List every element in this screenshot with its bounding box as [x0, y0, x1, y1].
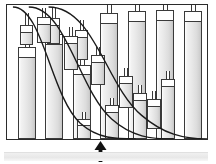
cylinder-cap [37, 17, 51, 25]
cylinder-body [184, 11, 202, 139]
cylinder-body [45, 34, 63, 139]
cylinder-cap [156, 10, 174, 21]
cylinder-cap [119, 76, 133, 84]
cyl-r1c7 [184, 5, 202, 139]
cyl-low-b [105, 98, 119, 139]
cylinder-cap [147, 99, 161, 107]
cyl-mid-d [147, 91, 161, 129]
bottom-band [4, 152, 208, 161]
cylinder-cap [100, 13, 118, 24]
cyl-low-a [77, 112, 91, 139]
diagram-frame [6, 4, 208, 140]
cyl-mid-b [91, 47, 105, 85]
cyl-mid-c [119, 68, 133, 108]
cylinder-cap [20, 25, 33, 33]
cyl-r2c1 [20, 13, 33, 45]
cylinder-cap [18, 47, 36, 58]
cylinder-cap [133, 93, 147, 101]
cylinder-cap [91, 55, 105, 63]
cylinder-cap [161, 79, 175, 87]
cylinder-body [18, 47, 36, 139]
figure-canvas [0, 0, 216, 164]
cylinder-cap [77, 119, 91, 126]
cyl-low-d [161, 71, 175, 139]
cyl-mid-a [64, 27, 78, 70]
cylinder-body [161, 79, 175, 139]
cylinder-cap [184, 11, 202, 22]
cylinder-cap [105, 105, 119, 113]
cylinder-cap [64, 36, 78, 44]
cyl-small-a [37, 8, 51, 43]
cylinder-cap [128, 11, 146, 22]
cyl-low-c [133, 85, 147, 139]
